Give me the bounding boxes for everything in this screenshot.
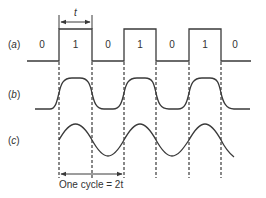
label-b: (b) bbox=[8, 89, 20, 100]
label-a: (a) bbox=[8, 39, 20, 50]
signal-diagram: (a) (b) (c) t 0 1 0 1 0 1 0 One cycle = … bbox=[0, 0, 266, 198]
bit-label: 0 bbox=[169, 39, 175, 50]
label-c: (c) bbox=[8, 135, 20, 146]
period-t-label: t bbox=[74, 7, 78, 18]
bit-label: 1 bbox=[73, 39, 79, 50]
sine-wave bbox=[59, 124, 234, 157]
bit-label: 0 bbox=[39, 39, 45, 50]
cycle-marker: One cycle = 2t bbox=[59, 174, 123, 190]
bit-label: 1 bbox=[202, 39, 208, 50]
bit-label: 1 bbox=[137, 39, 143, 50]
bit-label: 0 bbox=[105, 39, 111, 50]
cycle-label: One cycle = 2t bbox=[59, 179, 123, 190]
bit-label: 0 bbox=[232, 39, 238, 50]
period-t-marker: t bbox=[59, 7, 92, 29]
rounded-wave bbox=[35, 78, 250, 109]
